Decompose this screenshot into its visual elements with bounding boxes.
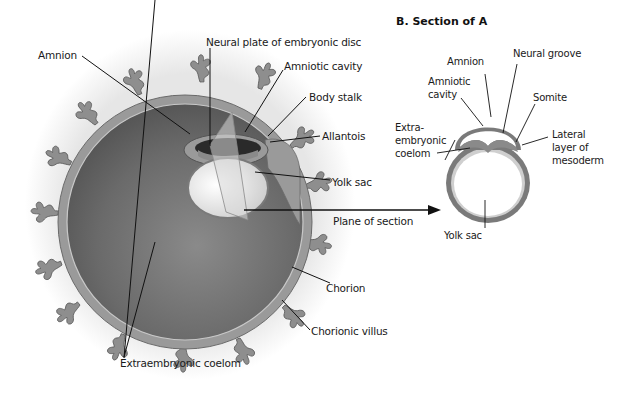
label-b-yolk-sac: Yolk sac	[444, 230, 482, 242]
label-extraembryonic-coelom: Extraembryonic coelom	[120, 357, 241, 369]
label-plane-of-section: Plane of section	[333, 215, 413, 227]
label-chorionic-villus: Chorionic villus	[311, 325, 388, 337]
label-b-lateral-1: Lateral	[552, 129, 585, 141]
label-amniotic-cavity: Amniotic cavity	[284, 60, 362, 72]
label-b-neural-groove: Neural groove	[513, 48, 581, 60]
label-yolk-sac: Yolk sac	[332, 176, 372, 188]
label-amnion: Amnion	[38, 49, 77, 61]
label-neural-plate: Neural plate of embryonic disc	[206, 36, 361, 48]
label-b-somite: Somite	[533, 92, 567, 104]
label-b-extra-1: Extra-	[395, 122, 424, 134]
label-chorion: Chorion	[326, 282, 365, 294]
label-allantois: Allantois	[322, 130, 365, 142]
section-b	[446, 128, 530, 224]
label-b-amnion: Amnion	[447, 56, 484, 68]
label-b-amniotic-cavity-1: Amniotic	[428, 76, 470, 88]
arrowhead-icon	[428, 205, 441, 215]
label-b-extra-2: embryonic	[395, 135, 446, 147]
label-b-amniotic-cavity-2: cavity	[428, 89, 457, 101]
label-b-lateral-2: layer of	[552, 142, 588, 154]
panel-b-title: B. Section of A	[396, 15, 487, 28]
label-b-extra-3: coelom	[395, 148, 430, 160]
label-b-lateral-3: mesoderm	[552, 155, 604, 167]
label-body-stalk: Body stalk	[309, 91, 362, 103]
embryo-diagram: Amnion Neural plate of embryonic disc Am…	[0, 0, 641, 397]
